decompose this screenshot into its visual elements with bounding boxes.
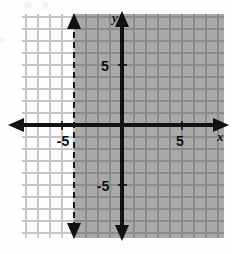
y-axis-name-label: y — [110, 10, 118, 25]
y-axis-negative-tick-label: -5 — [97, 178, 110, 194]
y-axis-positive-tick-label: 5 — [101, 58, 109, 74]
graph-canvas: y x 5 -5 5 -5 — [0, 0, 232, 254]
coordinate-plane-figure: y x 5 -5 5 -5 — [0, 0, 232, 254]
x-axis-name-label: x — [216, 129, 224, 144]
x-axis-positive-tick-label: 5 — [176, 133, 184, 149]
x-axis-left-arrowhead — [8, 118, 24, 132]
x-axis-negative-tick-label: -5 — [57, 133, 70, 149]
